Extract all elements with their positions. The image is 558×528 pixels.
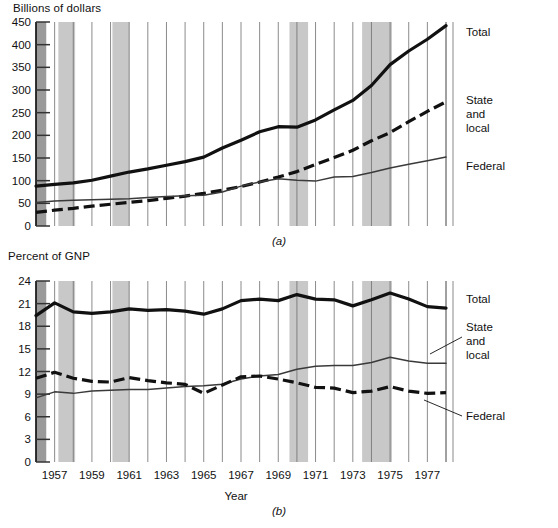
- x-tick-label-1969: 1969: [265, 469, 291, 481]
- recession-band-2: [112, 22, 129, 226]
- y-tick-label-150: 150: [12, 152, 31, 164]
- panel-a: 050100150200250300350400450TotalStateand…: [12, 16, 505, 232]
- y-tick-label-0: 0: [25, 456, 31, 468]
- recession-band-3: [289, 281, 308, 462]
- y-tick-label-50: 50: [18, 197, 31, 209]
- y-tick-label-3: 3: [25, 433, 31, 445]
- x-tick-label-1963: 1963: [154, 469, 180, 481]
- leader-line-1: [424, 400, 462, 416]
- y-tick-label-300: 300: [12, 84, 31, 96]
- y-tick-label-0: 0: [25, 220, 31, 232]
- panel-b: 0369121518212419571959196119631965196719…: [18, 275, 505, 502]
- y-tick-label-250: 250: [12, 107, 31, 119]
- series-label-federal: Federal: [466, 160, 505, 172]
- series-label-state-and-local-line-0: State: [466, 321, 493, 333]
- y-tick-label-200: 200: [12, 129, 31, 141]
- x-tick-label-1977: 1977: [415, 469, 441, 481]
- recession-band-0: [36, 22, 46, 226]
- recession-band-4: [362, 281, 392, 462]
- y-tick-label-21: 21: [18, 298, 31, 310]
- figure-root: Billions of dollars (a) Percent of GNP (…: [0, 0, 558, 528]
- x-tick-label-1975: 1975: [377, 469, 403, 481]
- series-label-total: Total: [466, 26, 490, 38]
- x-tick-label-1957: 1957: [42, 469, 68, 481]
- series-label-state-and-local-line-0: State: [466, 94, 493, 106]
- series-label-state-and-local-line-1: and: [466, 335, 485, 347]
- series-label-state-and-local-line-2: local: [466, 122, 490, 134]
- series-label-total: Total: [466, 293, 490, 305]
- y-tick-label-450: 450: [12, 16, 31, 28]
- y-tick-label-350: 350: [12, 61, 31, 73]
- x-axis-label: Year: [224, 490, 247, 502]
- series-label-federal: Federal: [466, 410, 505, 422]
- recession-band-1: [58, 22, 75, 226]
- x-tick-label-1967: 1967: [228, 469, 254, 481]
- x-tick-label-1973: 1973: [340, 469, 366, 481]
- series-label-state-and-local-line-2: local: [466, 349, 490, 361]
- y-tick-label-12: 12: [18, 366, 31, 378]
- series-label-state-and-local-line-1: and: [466, 108, 485, 120]
- y-tick-label-24: 24: [18, 275, 31, 287]
- y-tick-label-15: 15: [18, 343, 31, 355]
- recession-band-4: [362, 22, 392, 226]
- x-tick-label-1971: 1971: [303, 469, 329, 481]
- y-tick-label-100: 100: [12, 175, 31, 187]
- y-tick-label-9: 9: [25, 388, 31, 400]
- y-tick-label-400: 400: [12, 39, 31, 51]
- y-tick-label-18: 18: [18, 320, 31, 332]
- x-tick-label-1965: 1965: [191, 469, 217, 481]
- x-tick-label-1961: 1961: [116, 469, 142, 481]
- chart-canvas: 050100150200250300350400450TotalStateand…: [0, 0, 558, 528]
- y-tick-label-6: 6: [25, 411, 31, 423]
- x-tick-label-1959: 1959: [79, 469, 105, 481]
